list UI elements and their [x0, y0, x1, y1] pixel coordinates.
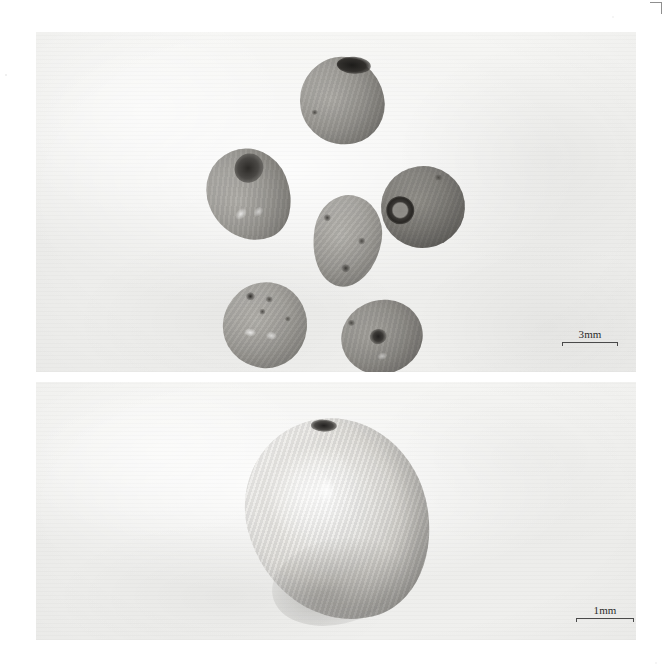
seed-shading: [292, 49, 392, 153]
scale-bar-1mm: 1mm: [576, 604, 634, 623]
scale-bar-tick-left: [562, 342, 563, 346]
seed-surface-texture: [219, 278, 312, 372]
seed-surface-texture: [292, 49, 392, 153]
bottom-panel-photograph: 1mm: [36, 382, 636, 640]
page-speck: [612, 16, 614, 18]
seed-top: [292, 49, 392, 153]
scale-bar-tick-right: [617, 342, 618, 346]
scale-bar-label-bottom: 1mm: [576, 604, 634, 617]
figure-root: 3mm: [0, 0, 665, 672]
scale-bar-tick-left: [576, 618, 577, 622]
corner-registration-mark: [650, 2, 662, 14]
seed-shading: [219, 278, 312, 372]
scale-bar-rule-top: [562, 342, 618, 347]
seed-body: [376, 161, 471, 254]
scale-bar-line: [576, 618, 634, 619]
scale-bar-line: [562, 342, 618, 343]
page-speck: [5, 74, 7, 76]
scale-bar-label-top: 3mm: [562, 328, 618, 341]
scale-bar-tick-right: [633, 618, 634, 622]
scale-bar-3mm: 3mm: [562, 328, 618, 347]
page-speck: [655, 662, 657, 664]
seed-surface-texture: [376, 161, 471, 254]
scale-bar-rule-bottom: [576, 618, 634, 623]
seed-right: [376, 161, 471, 254]
seed-body: [292, 49, 392, 153]
seed-shading: [376, 161, 471, 254]
seed-lower-left: [219, 278, 312, 372]
seed-body: [219, 278, 312, 372]
top-panel-photograph: 3mm: [36, 32, 636, 372]
registration-mark-vertical-rule: [661, 2, 662, 14]
